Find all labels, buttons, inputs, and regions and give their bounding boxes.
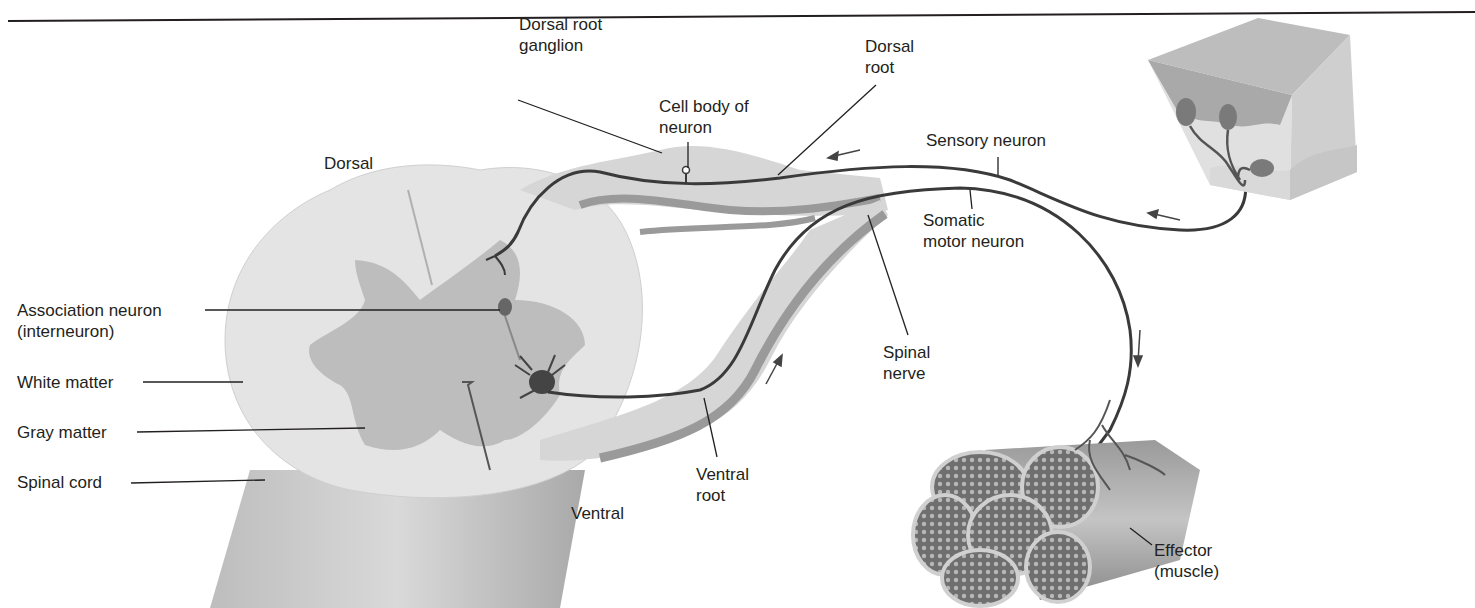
label-association-neuron: Association neuron (interneuron) [17,300,162,342]
label-dorsal: Dorsal [324,153,373,174]
label-white-matter: White matter [17,372,113,393]
skin-receptor-block [1148,18,1357,200]
label-sensory-neuron: Sensory neuron [926,130,1046,151]
label-dorsal-root-ganglion: Dorsal root ganglion [519,14,602,56]
reflex-arc-figure: Dorsal root ganglion Cell body of neuron… [0,0,1475,608]
label-effector: Effector (muscle) [1154,540,1219,582]
label-gray-matter: Gray matter [17,422,107,443]
label-somatic-motor-neuron: Somatic motor neuron [923,210,1024,252]
diagram-svg [0,0,1475,608]
label-ventral-root: Ventral root [696,464,749,506]
label-ventral: Ventral [571,503,624,524]
label-dorsal-root: Dorsal root [865,36,914,78]
label-spinal-cord: Spinal cord [17,472,102,493]
label-cell-body-of-neuron: Cell body of neuron [659,96,749,138]
spinal-cord [210,165,642,608]
label-spinal-nerve: Spinal nerve [883,342,930,384]
